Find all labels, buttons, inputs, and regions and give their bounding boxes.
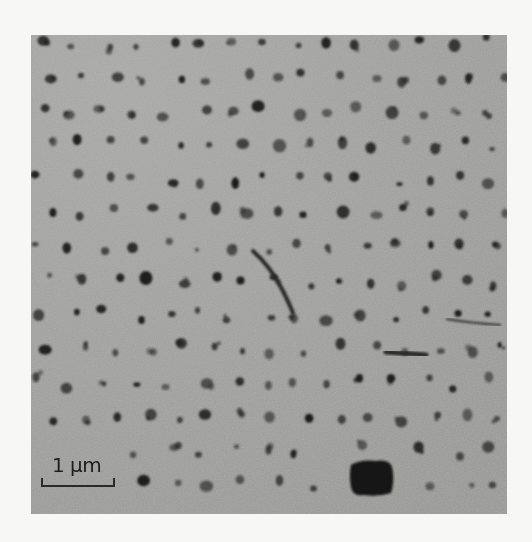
large-blob bbox=[350, 461, 393, 496]
scale-bar-label: 1 µm bbox=[52, 453, 101, 477]
scale-bar bbox=[41, 478, 115, 487]
particle-field bbox=[31, 35, 507, 514]
horizontal-streak bbox=[386, 352, 426, 355]
micrograph-image: 1 µm bbox=[31, 35, 507, 514]
